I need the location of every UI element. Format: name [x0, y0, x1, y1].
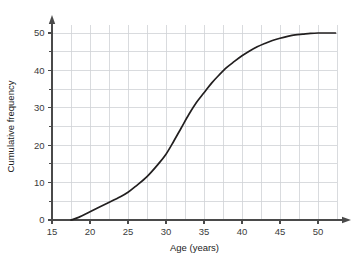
y-tick-label: 40	[34, 65, 45, 76]
y-tick-label: 50	[34, 27, 45, 38]
x-tick-label: 15	[47, 226, 58, 237]
x-tick-label: 30	[161, 226, 172, 237]
chart-canvas: 1520253035404550 01020304050 Age (years)…	[0, 0, 358, 266]
x-tick-label: 20	[85, 226, 96, 237]
cumulative-frequency-chart: 1520253035404550 01020304050 Age (years)…	[0, 0, 358, 266]
x-tick-label: 50	[313, 226, 324, 237]
y-tick-label: 30	[34, 102, 45, 113]
y-tick-label: 10	[34, 177, 45, 188]
x-tick-label: 40	[237, 226, 248, 237]
x-axis-title: Age (years)	[170, 242, 219, 253]
y-tick-label: 20	[34, 140, 45, 151]
x-tick-label: 35	[199, 226, 210, 237]
x-tick-label: 25	[123, 226, 134, 237]
y-axis-title: Cumulative frequency	[5, 80, 16, 172]
x-tick-label: 45	[275, 226, 286, 237]
y-tick-label: 0	[39, 214, 44, 225]
